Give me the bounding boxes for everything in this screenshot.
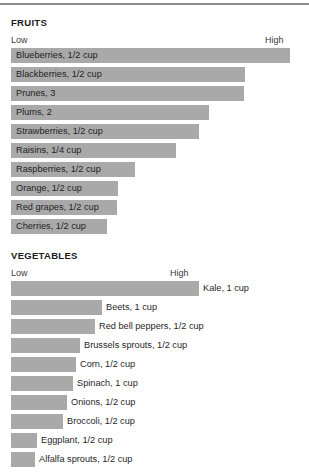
fruits-bar-list: Blueberries, 1/2 cupBlackberries, 1/2 cu… — [0, 47, 309, 237]
fruits-section: FRUITS Low High Blueberries, 1/2 cupBlac… — [0, 17, 309, 237]
bar-row: Blackberries, 1/2 cup — [0, 66, 309, 85]
bar — [11, 300, 102, 315]
bar — [11, 357, 76, 372]
vegetables-axis-high-label: High — [170, 267, 189, 280]
bar-row: Orange, 1/2 cup — [0, 180, 309, 199]
bar-row: Raisins, 1/4 cup — [0, 142, 309, 161]
bar-label: Brussels sprouts, 1/2 cup — [84, 338, 187, 353]
bar-row: Beets, 1 cup — [0, 299, 309, 318]
bar-row: Red grapes, 1/2 cup — [0, 199, 309, 218]
fruits-axis-high-label: High — [265, 34, 284, 47]
bar-label: Orange, 1/2 cup — [16, 181, 82, 196]
bar-label: Red grapes, 1/2 cup — [16, 200, 99, 215]
bar — [11, 281, 199, 296]
bar-row: Corn, 1/2 cup — [0, 356, 309, 375]
fruits-section-title: FRUITS — [0, 17, 309, 29]
bar-label: Raisins, 1/4 cup — [16, 143, 81, 158]
bar-row: Alfalfa sprouts, 1/2 cup — [0, 451, 309, 470]
top-divider-rule — [0, 3, 309, 5]
bar-row: Kale, 1 cup — [0, 280, 309, 299]
bar-label: Eggplant, 1/2 cup — [41, 433, 113, 448]
bar-label: Blueberries, 1/2 cup — [16, 48, 98, 63]
vegetables-axis-low-label: Low — [11, 267, 28, 280]
bar-label: Plums, 2 — [16, 105, 52, 120]
chart-page: FRUITS Low High Blueberries, 1/2 cupBlac… — [0, 0, 309, 473]
bar-label: Prunes, 3 — [16, 86, 55, 101]
bar-row: Plums, 2 — [0, 104, 309, 123]
bar-label: Blackberries, 1/2 cup — [16, 67, 102, 82]
bar-label: Cherries, 1/2 cup — [16, 219, 86, 234]
bar-row: Raspberries, 1/2 cup — [0, 161, 309, 180]
bar — [11, 433, 37, 448]
bar-label: Broccoli, 1/2 cup — [67, 414, 135, 429]
bar — [11, 376, 73, 391]
bar — [11, 338, 80, 353]
fruits-axis-low-label: Low — [11, 34, 28, 47]
vegetables-axis: Low High — [0, 267, 309, 280]
bar-label: Corn, 1/2 cup — [80, 357, 135, 372]
bar-label: Strawberries, 1/2 cup — [16, 124, 103, 139]
bar-label: Kale, 1 cup — [203, 281, 249, 296]
bar-label: Onions, 1/2 cup — [71, 395, 135, 410]
bar-row: Cherries, 1/2 cup — [0, 218, 309, 237]
vegetables-section-title: VEGETABLES — [0, 250, 309, 262]
bar-row: Eggplant, 1/2 cup — [0, 432, 309, 451]
vegetables-section: VEGETABLES Low High Kale, 1 cupBeets, 1 … — [0, 250, 309, 470]
bar — [11, 452, 35, 467]
bar-row: Red bell peppers, 1/2 cup — [0, 318, 309, 337]
bar-row: Prunes, 3 — [0, 85, 309, 104]
bar-row: Spinach, 1 cup — [0, 375, 309, 394]
vegetables-bar-list: Kale, 1 cupBeets, 1 cupRed bell peppers,… — [0, 280, 309, 470]
bar-label: Red bell peppers, 1/2 cup — [99, 319, 204, 334]
bar-row: Brussels sprouts, 1/2 cup — [0, 337, 309, 356]
bar-label: Raspberries, 1/2 cup — [16, 162, 101, 177]
bar-label: Beets, 1 cup — [106, 300, 157, 315]
bar-label: Spinach, 1 cup — [77, 376, 138, 391]
fruits-axis: Low High — [0, 34, 309, 47]
bar-label: Alfalfa sprouts, 1/2 cup — [39, 452, 132, 467]
bar-row: Broccoli, 1/2 cup — [0, 413, 309, 432]
bar-row: Blueberries, 1/2 cup — [0, 47, 309, 66]
bar — [11, 319, 95, 334]
bar-row: Strawberries, 1/2 cup — [0, 123, 309, 142]
bar — [11, 395, 67, 410]
bar — [11, 414, 63, 429]
bar-row: Onions, 1/2 cup — [0, 394, 309, 413]
